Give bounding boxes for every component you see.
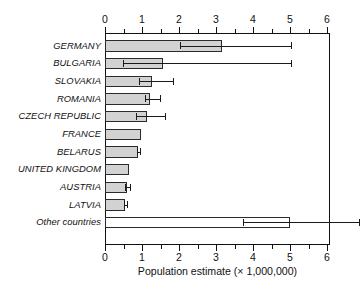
x-tick-label: 5: [287, 251, 293, 263]
bar-row: [106, 214, 329, 232]
bar-row: [106, 37, 329, 55]
bar-row: [106, 196, 329, 214]
error-bar: [180, 46, 291, 47]
error-bar-cap-low: [139, 78, 140, 85]
error-bar-cap-low: [137, 148, 138, 155]
category-label-united-kingdom: UNITED KINGDOM: [0, 160, 101, 178]
error-bar: [136, 116, 166, 117]
error-bar-cap-low: [243, 219, 244, 226]
x-tick-label: 5: [287, 13, 293, 25]
bottom-x-axis: 0123456: [105, 245, 330, 246]
minor-tick: [124, 245, 125, 249]
category-label-text: AUSTRIA: [60, 181, 101, 192]
category-label-text: UNITED KINGDOM: [18, 163, 101, 174]
bar-row: [106, 108, 329, 126]
x-tick-label: 4: [250, 251, 256, 263]
x-tick-label: 1: [139, 13, 145, 25]
bar-row: [106, 161, 329, 179]
bar-row: [106, 126, 329, 144]
x-tick-label: 2: [176, 13, 182, 25]
bar-france: [105, 129, 141, 141]
error-bar-cap-high: [165, 113, 166, 120]
category-label-germany: GERMANY: [0, 36, 101, 54]
error-bar-cap-high: [140, 148, 141, 155]
bar-row: [106, 90, 329, 108]
error-bar-cap-low: [145, 95, 146, 102]
error-bar-cap-high: [160, 95, 161, 102]
error-bar-cap-high: [291, 60, 292, 67]
minor-tick: [235, 245, 236, 249]
error-bar-cap-low: [124, 201, 125, 208]
x-axis-title: Population estimate (× 1,000,000): [105, 265, 330, 277]
x-tick-label: 6: [324, 251, 330, 263]
category-label-belarus: BELARUS: [0, 142, 101, 160]
error-bar: [123, 63, 291, 64]
category-label-text: CZECH REPUBLIC: [19, 110, 101, 121]
category-label-text: LATVIA: [69, 199, 101, 210]
x-tick-label: 0: [102, 13, 108, 25]
bar-row: [106, 179, 329, 197]
bar-latvia: [105, 199, 124, 211]
error-bar-cap-high: [291, 42, 292, 49]
error-bar-cap-low: [125, 184, 126, 191]
minor-tick: [309, 245, 310, 249]
category-label-text: BELARUS: [57, 146, 101, 157]
x-tick-label: 3: [213, 13, 219, 25]
error-bar-cap-low: [180, 42, 181, 49]
x-tick-label: 1: [139, 251, 145, 263]
minor-tick: [161, 245, 162, 249]
category-label-latvia: LATVIA: [0, 195, 101, 213]
category-label-austria: AUSTRIA: [0, 178, 101, 196]
bar-row: [106, 55, 329, 73]
bar-austria: [105, 182, 126, 194]
bar-belarus: [105, 146, 138, 158]
x-tick-label: 4: [250, 13, 256, 25]
bar-row: [106, 73, 329, 91]
x-tick-label: 0: [102, 251, 108, 263]
error-bar-cap-high: [127, 201, 128, 208]
error-bar-cap-low: [123, 60, 124, 67]
error-bar-cap-high: [130, 184, 131, 191]
x-tick-label: 6: [324, 13, 330, 25]
error-bar-cap-high: [173, 78, 174, 85]
bar-united-kingdom: [105, 164, 129, 176]
category-label-other-countries: Other countries: [0, 213, 101, 231]
bar-romania: [105, 93, 149, 105]
category-label-text: BULGARIA: [53, 57, 101, 68]
category-label-czech-republic: CZECH REPUBLIC: [0, 107, 101, 125]
category-label-text: Other countries: [36, 216, 101, 227]
category-label-text: ROMANIA: [57, 93, 101, 104]
minor-tick: [198, 245, 199, 249]
x-tick-label: 2: [176, 251, 182, 263]
error-bar-cap-low: [136, 113, 137, 120]
category-label-bulgaria: BULGARIA: [0, 54, 101, 72]
error-bar: [139, 81, 172, 82]
category-label-text: SLOVAKIA: [55, 75, 101, 86]
category-label-text: FRANCE: [62, 128, 101, 139]
error-bar: [145, 99, 160, 100]
bar-row: [106, 143, 329, 161]
category-label-slovakia: SLOVAKIA: [0, 72, 101, 90]
category-axis-labels: GERMANYBULGARIASLOVAKIAROMANIACZECH REPU…: [0, 33, 101, 245]
category-label-romania: ROMANIA: [0, 89, 101, 107]
category-label-france: FRANCE: [0, 125, 101, 143]
error-bar: [243, 222, 360, 223]
x-tick-label: 3: [213, 251, 219, 263]
plot-area: [105, 33, 330, 245]
category-label-text: GERMANY: [53, 40, 101, 51]
minor-tick: [272, 245, 273, 249]
